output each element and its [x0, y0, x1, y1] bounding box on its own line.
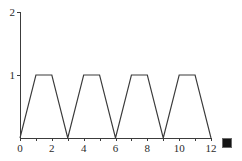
data-series-group: [20, 75, 211, 138]
x-tick-label-2: 2: [49, 142, 55, 154]
trapezoidal-wave-chart: 024681012 12: [0, 0, 242, 161]
data-series-trapezoidal-wave: [20, 75, 211, 138]
x-tick-label-4: 4: [81, 142, 87, 154]
selection-square-marker[interactable]: [222, 138, 232, 148]
x-tick-label-6: 6: [113, 142, 119, 154]
x-tick-label-0: 0: [17, 142, 23, 154]
x-tick-label-8: 8: [145, 142, 151, 154]
y-tick-label-2: 2: [10, 6, 16, 18]
plot-canvas: 024681012 12: [0, 0, 242, 161]
y-tick-label-1: 1: [10, 69, 16, 81]
y-axis-tick-labels: 12: [10, 6, 16, 81]
x-axis-tick-labels: 024681012: [17, 142, 216, 154]
x-tick-label-10: 10: [174, 142, 186, 154]
x-tick-label-12: 12: [206, 142, 217, 154]
